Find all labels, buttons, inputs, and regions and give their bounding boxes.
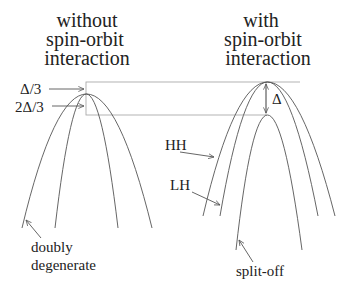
right-title: with spin-orbit interaction [224, 9, 311, 69]
delta-label: Δ [272, 91, 282, 107]
doubly-label: doubly [31, 239, 73, 255]
band-structure-diagram: without spin-orbit interaction with spin… [0, 0, 350, 292]
left-title: without spin-orbit interaction [44, 9, 130, 69]
energy-level-box [86, 82, 266, 115]
delta-third-label: Δ/3 [20, 81, 41, 97]
two-delta-third-label: 2Δ/3 [15, 99, 44, 115]
split-off-arrow [239, 240, 253, 262]
hh-arrow [180, 152, 214, 157]
lh-band [220, 82, 318, 216]
doubly-degenerate-arrow [26, 220, 41, 238]
split-off-label: split-off [236, 263, 284, 279]
degenerate-label: degenerate [31, 257, 96, 273]
left-title-line-3: interaction [44, 47, 130, 69]
left-inner-band [55, 94, 118, 228]
right-bands [203, 82, 335, 250]
hh-band [203, 82, 335, 216]
hh-label: HH [165, 137, 187, 153]
right-title-line-3: interaction [225, 47, 311, 69]
lh-label: LH [170, 177, 190, 193]
split-off-band [236, 115, 302, 250]
